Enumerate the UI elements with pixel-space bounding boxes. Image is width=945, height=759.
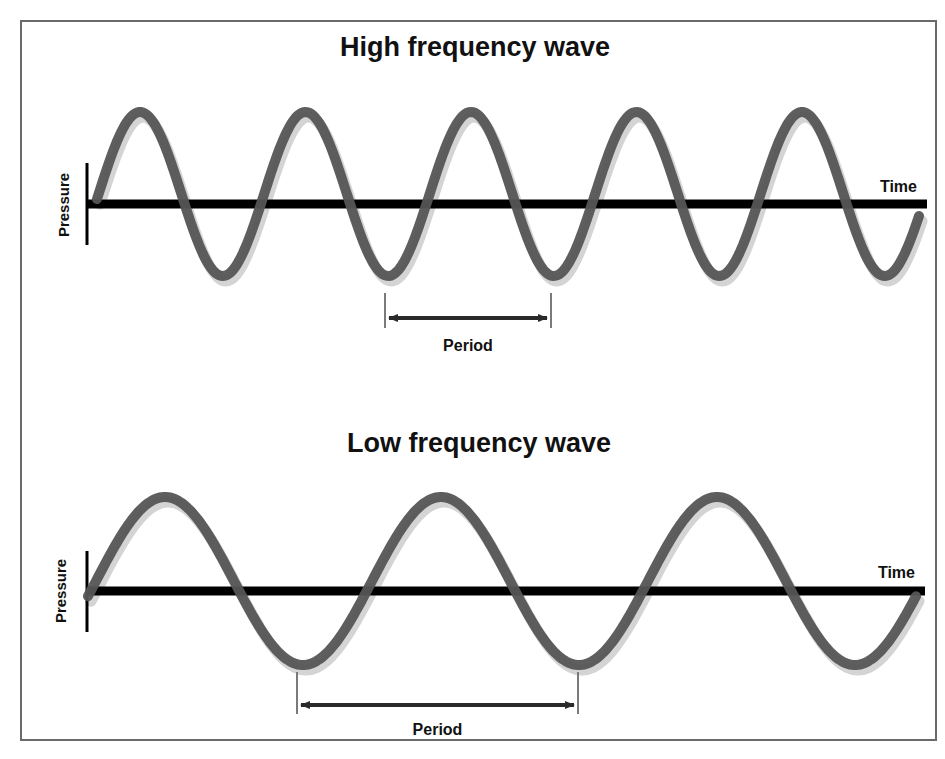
panel-title: Low frequency wave (347, 428, 611, 458)
wave-shadow (91, 502, 919, 670)
frequency-diagram: High frequency wave Pressure Time Period… (0, 0, 945, 759)
period-label: Period (443, 337, 493, 354)
low-frequency-panel: Low frequency wave Pressure Time Period (52, 428, 925, 738)
period-label: Period (413, 721, 463, 738)
high-frequency-panel: High frequency wave Pressure Time Period (55, 32, 927, 354)
high-frequency-wave (97, 112, 919, 276)
time-label: Time (878, 564, 915, 581)
panel-title: High frequency wave (340, 32, 610, 62)
pressure-label: Pressure (52, 559, 69, 623)
pressure-label: Pressure (55, 173, 72, 237)
time-label: Time (880, 178, 917, 195)
